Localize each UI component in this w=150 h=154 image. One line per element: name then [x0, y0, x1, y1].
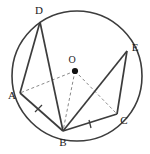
- chord-d-a: [20, 22, 40, 93]
- tick-mark-bc: [89, 120, 91, 128]
- label-b: B: [59, 136, 66, 148]
- label-o: O: [68, 54, 75, 65]
- geometry-canvas: O A B C D E: [0, 0, 150, 154]
- radius-o-b: [63, 71, 75, 131]
- label-c: C: [120, 114, 127, 126]
- label-d: D: [35, 4, 43, 16]
- label-e: E: [132, 41, 139, 53]
- radius-o-a: [20, 71, 75, 93]
- center-dot-icon: [72, 68, 78, 74]
- circle-geometry-figure: O A B C D E: [0, 0, 150, 154]
- label-a: A: [8, 89, 16, 101]
